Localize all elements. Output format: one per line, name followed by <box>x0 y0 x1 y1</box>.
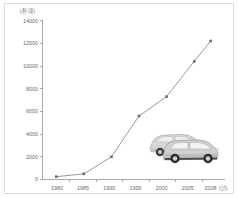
x-tick-label: 1985 <box>77 185 89 191</box>
y-tick-label: 12000 <box>23 40 38 46</box>
y-tick-label: 2000 <box>26 154 38 160</box>
x-tick-label: 2000 <box>156 185 168 191</box>
car-icon <box>146 126 220 168</box>
data-point-marker <box>55 175 58 178</box>
y-tick-label: 10000 <box>23 63 38 69</box>
x-axis-tick-labels: 1980 1985 1990 1995 2000 2005 2008 (년) <box>51 184 228 191</box>
car-suv-foreground <box>163 140 219 163</box>
chart-screenshot: (천 대) 0 2000 4000 6000 <box>0 0 238 198</box>
x-tick-label: 2005 <box>182 185 194 191</box>
x-tick-label: 2008 <box>205 185 217 191</box>
y-axis-tick-labels: 0 2000 4000 6000 8000 10000 12000 14000 <box>23 18 38 183</box>
x-tick-label: 1980 <box>51 185 63 191</box>
data-point-marker <box>165 95 168 98</box>
x-tick-label: 1995 <box>129 185 141 191</box>
x-tick-label: 1990 <box>103 185 115 191</box>
y-tick-label: 14000 <box>23 18 38 24</box>
data-point-marker <box>193 60 196 63</box>
y-tick-label: 4000 <box>26 131 38 137</box>
y-tick-label: 6000 <box>26 108 38 114</box>
line-chart-svg: 0 2000 4000 6000 8000 10000 12000 14000 <box>0 0 238 198</box>
chart-plot-area: (천 대) 0 2000 4000 6000 <box>0 0 238 198</box>
y-tick-label: 0 <box>35 176 38 182</box>
data-point-marker <box>138 115 141 118</box>
data-point-marker <box>209 40 212 43</box>
data-point-marker <box>110 156 113 159</box>
data-point-marker <box>83 173 86 176</box>
x-axis-unit-label: (년) <box>219 184 228 191</box>
y-tick-label: 8000 <box>26 86 38 92</box>
